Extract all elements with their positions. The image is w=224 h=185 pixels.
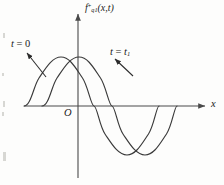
y-axis-label-args: (x,t)	[97, 2, 113, 13]
y-axis-label: f+q1(x,t)	[85, 3, 114, 13]
scan-artifact	[2, 112, 4, 116]
annotation-t0-equals: =	[14, 38, 25, 49]
annotation-t1-sub: 1	[127, 50, 130, 57]
wave-figure: f+q1(x,t) x O t = 0 t = t1	[0, 0, 224, 185]
scan-artifact	[2, 73, 4, 76]
scan-artifact	[3, 101, 5, 107]
x-axis-label: x	[211, 99, 216, 110]
annotation-t1: t = t1	[110, 47, 130, 58]
scan-artifact	[3, 33, 5, 38]
wave-plot	[0, 0, 224, 185]
annotation-t0-value: 0	[25, 38, 30, 49]
leader-arrow-t0	[27, 53, 46, 77]
annotation-t0: t = 0	[11, 39, 30, 50]
scan-artifact	[3, 152, 6, 161]
leader-arrow-t1	[115, 59, 133, 76]
annotation-t1-equals: =	[113, 46, 124, 57]
origin-label: O	[64, 108, 72, 119]
